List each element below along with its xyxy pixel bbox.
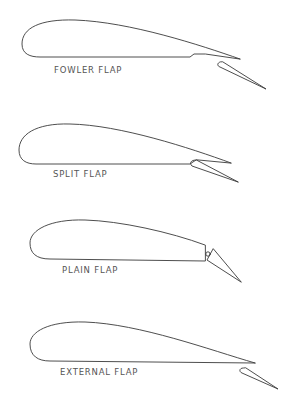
- external-flap-figure: [30, 322, 278, 389]
- plain-airfoil-main: [30, 220, 205, 261]
- split-airfoil-main: [19, 124, 231, 164]
- external-airfoil-main: [30, 322, 255, 363]
- split-flap-figure: [19, 124, 238, 182]
- plain-flap-label: PLAIN FLAP: [62, 266, 118, 275]
- split-flap-label: SPLIT FLAP: [53, 170, 107, 179]
- external-flap-label: EXTERNAL FLAP: [60, 368, 138, 377]
- fowler-flap-label: FOWLER FLAP: [54, 66, 122, 75]
- flap-types-diagram: [0, 0, 292, 396]
- plain-flap-element: [207, 249, 241, 282]
- fowler-flap-element: [218, 62, 266, 89]
- external-flap-element: [240, 368, 278, 389]
- fowler-flap-figure: [22, 20, 266, 89]
- fowler-airfoil-main: [22, 20, 240, 59]
